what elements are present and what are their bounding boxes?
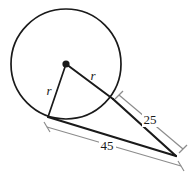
radius-left-label: r xyxy=(46,83,52,98)
geometry-canvas: r r 25 45 xyxy=(0,0,194,184)
radius-right-label: r xyxy=(90,68,96,83)
geometry-diagram: r r 25 45 xyxy=(0,0,194,184)
segment-upper-label: 25 xyxy=(144,112,157,127)
circle-center-point xyxy=(62,60,69,67)
segment-lower-label: 45 xyxy=(101,138,114,153)
